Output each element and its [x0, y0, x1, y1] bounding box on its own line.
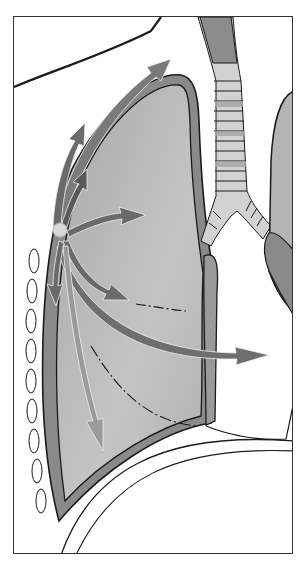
shoulder-outline [14, 17, 161, 87]
illustration-frame [13, 16, 293, 554]
trachea [198, 17, 271, 246]
heart-base-outline [206, 401, 293, 439]
arrow-origin-dot [53, 223, 67, 237]
left-lung-lower [265, 233, 294, 316]
lung-illustration [14, 17, 293, 554]
mediastinal-border [204, 255, 218, 425]
